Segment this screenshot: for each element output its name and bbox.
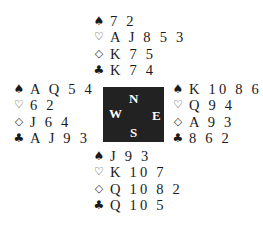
east-clubs-cards: 8 6 2: [189, 130, 232, 146]
heart-icon: ♡: [92, 164, 106, 180]
compass-north-label: N: [129, 92, 138, 105]
east-hearts-cards: Q 9 4: [189, 97, 235, 113]
west-hearts-cards: 6 2: [30, 97, 57, 113]
north-clubs-cards: K 7 4: [110, 62, 156, 78]
west-spades-cards: A Q 5 4: [30, 81, 95, 97]
heart-icon: ♡: [92, 29, 106, 45]
east-diamonds-cards: A 9 3: [189, 114, 234, 130]
spade-icon: ♠: [92, 148, 106, 164]
spade-icon: ♠: [12, 81, 26, 97]
club-icon: ♣: [92, 62, 106, 78]
diamond-icon: ◇: [12, 114, 26, 130]
west-diamonds-cards: J 6 4: [30, 114, 71, 130]
diamond-icon: ◇: [92, 46, 106, 62]
north-diamonds-cards: K 7 5: [110, 46, 156, 62]
club-icon: ♣: [171, 130, 185, 146]
diamond-icon: ◇: [92, 181, 106, 197]
east-spades-cards: K 10 8 6: [189, 81, 262, 97]
diamond-icon: ◇: [171, 114, 185, 130]
south-hearts-cards: K 10 7: [110, 164, 167, 180]
spade-icon: ♠: [171, 81, 185, 97]
compass-south-label: S: [130, 126, 137, 139]
south-spades-cards: J 9 3: [110, 148, 151, 164]
heart-icon: ♡: [171, 97, 185, 113]
compass-east-label: E: [152, 109, 161, 122]
north-hearts-cards: A J 8 5 3: [110, 29, 186, 45]
north-spades-cards: 7 2: [110, 13, 137, 29]
spade-icon: ♠: [92, 13, 106, 29]
compass-box: N W E S: [103, 87, 164, 142]
west-clubs-cards: A J 9 3: [30, 130, 90, 146]
compass-west-label: W: [109, 107, 122, 120]
south-diamonds-cards: Q 10 8 2: [110, 181, 183, 197]
club-icon: ♣: [12, 130, 26, 146]
south-clubs-cards: Q 10 5: [110, 197, 167, 213]
heart-icon: ♡: [12, 97, 26, 113]
club-icon: ♣: [92, 197, 106, 213]
